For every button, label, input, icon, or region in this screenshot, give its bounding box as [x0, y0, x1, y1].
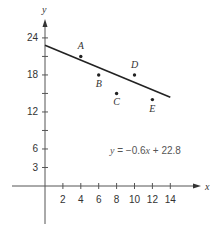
- point-label: A: [77, 40, 85, 51]
- point-label: C: [113, 96, 120, 107]
- y-tick-label: 18: [27, 69, 39, 80]
- scatter-chart: 246810121436121824 ABCDE y = −0.6x + 22.…: [0, 0, 221, 237]
- point-label: B: [96, 78, 102, 89]
- y-tick-label: 3: [32, 162, 38, 173]
- x-tick-label: 6: [96, 194, 102, 205]
- x-tick-label: 8: [114, 194, 120, 205]
- equation-annotation: y = −0.6x + 22.8: [109, 145, 181, 156]
- x-tick-label: 4: [78, 194, 84, 205]
- x-tick-label: 12: [147, 194, 159, 205]
- x-tick-label: 14: [165, 194, 177, 205]
- data-point: [115, 92, 118, 95]
- data-point: [79, 55, 82, 58]
- data-point: [151, 98, 154, 101]
- x-tick-label: 10: [129, 194, 141, 205]
- data-point: [133, 73, 136, 76]
- point-label: D: [130, 59, 139, 70]
- x-tick-label: 2: [60, 194, 66, 205]
- y-tick-label: 24: [27, 32, 39, 43]
- y-axis-label: y: [41, 4, 47, 15]
- axis-ticks: 246810121436121824: [27, 32, 176, 205]
- data-points: ABCDE: [77, 40, 156, 113]
- y-tick-label: 6: [32, 143, 38, 154]
- regression-line: [45, 45, 170, 97]
- data-point: [97, 73, 100, 76]
- point-label: E: [148, 103, 155, 114]
- y-tick-label: 12: [27, 106, 39, 117]
- x-axis-label: x: [204, 181, 210, 192]
